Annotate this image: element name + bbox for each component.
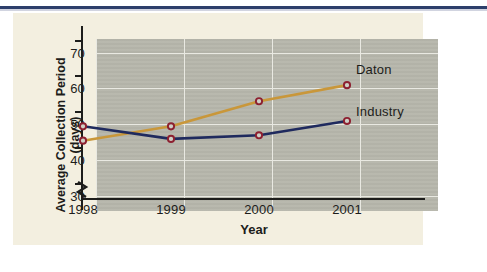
- chart-figure: Average Collection Period (days) 70 60 5…: [0, 0, 487, 272]
- gridline-30: [96, 196, 438, 197]
- axis-break-icon: [74, 180, 90, 200]
- top-divider-shadow: [0, 9, 487, 11]
- gridline-40: [96, 160, 438, 161]
- x-tick-label-2001: 2001: [332, 202, 362, 217]
- x-axis-line: [81, 198, 425, 200]
- vgridline-1998: [96, 39, 97, 211]
- legend-label-daton: Daton: [356, 62, 392, 77]
- y-tick-mark-40: [75, 147, 82, 149]
- y-tick-mark-60: [75, 75, 82, 77]
- y-tick-mark-70: [75, 40, 82, 42]
- x-tick-label-1999: 1999: [156, 202, 186, 217]
- x-axis-title: Year: [83, 222, 425, 237]
- x-tick-label-1998: 1998: [68, 202, 98, 217]
- y-tick-mark-50: [75, 111, 82, 113]
- vgridline-1999: [184, 39, 185, 211]
- gridline-50: [96, 124, 438, 125]
- gridline-60: [96, 88, 438, 89]
- gridline-70: [96, 53, 438, 54]
- vgridline-2000: [272, 39, 273, 211]
- x-tick-label-2000: 2000: [244, 202, 274, 217]
- legend-label-industry: Industry: [356, 104, 404, 119]
